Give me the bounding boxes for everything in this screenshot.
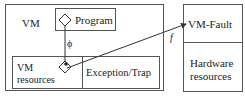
exception-trap-label: Exception/Trap bbox=[86, 67, 151, 79]
vm-label: VM bbox=[22, 17, 40, 29]
phi-edge-label: ϕ bbox=[67, 38, 72, 50]
hardware-label-line1: Hardware bbox=[190, 57, 233, 69]
hardware-label-line2: resources bbox=[190, 70, 232, 82]
f-edge-label: f bbox=[170, 32, 173, 44]
vm-fault-label: VM-Fault bbox=[188, 18, 232, 30]
vm-resources-label-line1: VM bbox=[17, 62, 33, 74]
program-label: Program bbox=[75, 14, 113, 26]
vm-resources-label-line2: resources bbox=[17, 74, 55, 86]
